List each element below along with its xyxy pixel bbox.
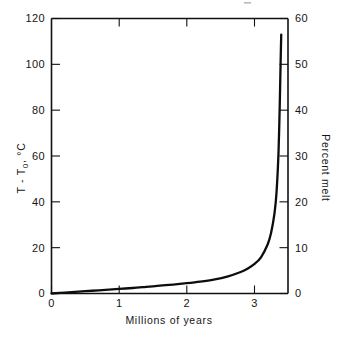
y-right-tick-30: 30 bbox=[295, 150, 308, 162]
y-left-tick-0: 0 bbox=[38, 287, 45, 299]
y-right-tick-60: 60 bbox=[295, 12, 308, 24]
chart-svg: 0 20 40 60 80 100 120 0 10 20 30 40 50 6… bbox=[0, 0, 343, 341]
y-left-tick-80: 80 bbox=[32, 104, 45, 116]
y-left-tick-100: 100 bbox=[25, 58, 45, 70]
x-axis-title: Millions of years bbox=[125, 314, 212, 326]
y-axis-left-title: T - T0, °C bbox=[15, 143, 30, 194]
x-tick-1: 1 bbox=[116, 297, 123, 309]
y-left-tick-40: 40 bbox=[32, 196, 45, 208]
y-left-title-unit: , °C bbox=[15, 143, 27, 163]
y-left-title-main: T - T bbox=[15, 168, 27, 193]
y-axis-right-labels: 0 10 20 30 40 50 60 bbox=[295, 12, 308, 299]
plot-frame bbox=[52, 19, 289, 294]
x-tick-3: 3 bbox=[251, 297, 258, 309]
y-right-title-text: Percent melt bbox=[320, 134, 332, 201]
scan-artifact bbox=[244, 2, 251, 4]
y-axis-left-ticks bbox=[52, 19, 61, 294]
y-right-tick-20: 20 bbox=[295, 196, 308, 208]
y-left-tick-120: 120 bbox=[25, 12, 45, 24]
y-axis-left-labels: 0 20 40 60 80 100 120 bbox=[25, 12, 45, 299]
y-right-tick-40: 40 bbox=[295, 104, 308, 116]
chart-figure: 0 20 40 60 80 100 120 0 10 20 30 40 50 6… bbox=[0, 0, 343, 341]
svg-text:T - T0, °C: T - T0, °C bbox=[15, 143, 30, 194]
y-right-tick-10: 10 bbox=[295, 242, 308, 254]
y-right-tick-50: 50 bbox=[295, 58, 308, 70]
x-axis-labels: 0 1 2 3 bbox=[48, 297, 258, 309]
x-axis-top-ticks bbox=[119, 19, 254, 27]
x-tick-0: 0 bbox=[48, 297, 55, 309]
data-curve bbox=[52, 35, 282, 294]
y-right-tick-0: 0 bbox=[295, 287, 302, 299]
y-left-tick-20: 20 bbox=[32, 242, 45, 254]
y-left-tick-60: 60 bbox=[32, 150, 45, 162]
y-axis-right-title: Percent melt bbox=[320, 134, 332, 201]
x-tick-2: 2 bbox=[184, 297, 191, 309]
